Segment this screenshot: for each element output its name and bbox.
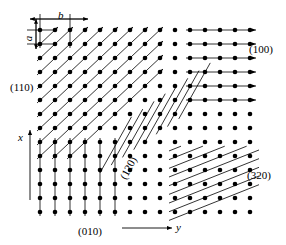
plane-family-320: [169, 146, 259, 220]
lattice-canvas: [0, 0, 286, 245]
plane-label-100: (100): [249, 44, 273, 55]
dimension-label-a: a: [23, 36, 34, 42]
lattice-figure: b a (110) (100) (010) (120) (320) x y: [0, 0, 286, 245]
plane-label-010: (010): [78, 226, 102, 237]
plane-label-110: (110): [10, 82, 33, 93]
axis-label-y: y: [176, 222, 181, 233]
plane-label-320: (320): [247, 170, 271, 181]
axis-label-x: x: [18, 132, 23, 143]
dimension-label-b: b: [58, 10, 64, 21]
plane-family-100: [186, 30, 256, 100]
